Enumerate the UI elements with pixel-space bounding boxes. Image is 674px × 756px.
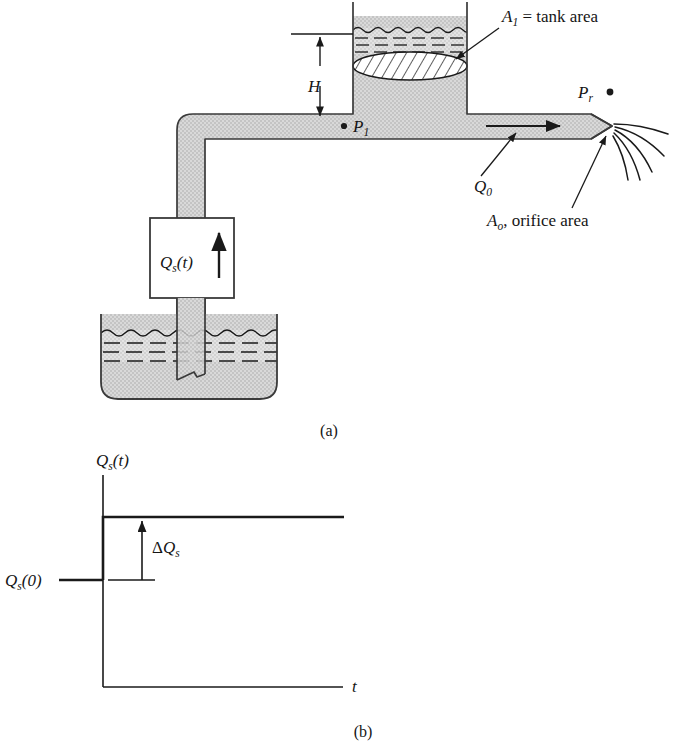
orifice-callout: Ao, orifice area xyxy=(486,136,606,232)
technical-figure: H A1 = tank area P1 Pr Q0 Ao, orifice ar… xyxy=(0,0,674,756)
orifice-label: Ao, orifice area xyxy=(486,211,589,232)
head-label: H xyxy=(307,77,322,96)
pump-label: Qs(t) xyxy=(160,253,193,274)
pr-label: Pr xyxy=(577,83,593,104)
caption-b: (b) xyxy=(354,723,373,741)
suction-pipe-immersed xyxy=(177,314,205,380)
suction-pipe-immersed-fluid xyxy=(177,314,205,376)
orifice-leader xyxy=(572,136,606,208)
figure-container: H A1 = tank area P1 Pr Q0 Ao, orifice ar… xyxy=(0,0,674,756)
plot-initial-value-label: Qs(0) xyxy=(5,571,42,592)
plot-delta-label: ΔQs xyxy=(152,538,180,559)
tank-area-callout: A1 = tank area xyxy=(456,7,598,59)
supply-pump-box: Qs(t) xyxy=(150,218,234,298)
caption-a: (a) xyxy=(320,422,338,440)
step-response-plot: Qs(t) t Qs(0) ΔQs xyxy=(5,451,358,696)
plot-step-curve xyxy=(103,517,344,580)
head-dimension: H xyxy=(291,34,353,116)
tank-area-ellipse xyxy=(353,52,467,80)
pressure-pr: Pr xyxy=(577,83,613,104)
p1-dot xyxy=(341,123,347,129)
tank-area-label: A1 = tank area xyxy=(501,7,598,28)
tank-free-surface-band xyxy=(353,28,473,55)
plot-y-axis-label: Qs(t) xyxy=(96,451,129,472)
plot-x-axis-label: t xyxy=(352,677,358,696)
q0-label: Q0 xyxy=(474,177,492,198)
pr-dot xyxy=(607,89,614,96)
spray-jet xyxy=(613,124,668,180)
